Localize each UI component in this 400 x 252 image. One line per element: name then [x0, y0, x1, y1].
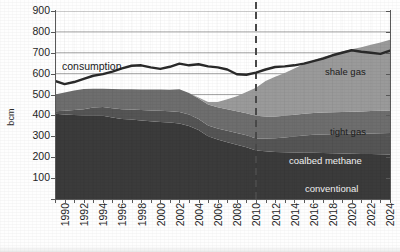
y-tick-label-600: 600: [16, 68, 50, 78]
x-tick-label-1990: 1990: [59, 203, 71, 249]
chart-figure: bcm 900800700600500400300200100 19901992…: [0, 0, 400, 252]
right-tick-300: [386, 136, 391, 137]
y-axis-tick-labels: 900800700600500400300200100: [12, 0, 50, 252]
x-tick-label-2012: 2012: [270, 203, 282, 249]
series-label-shale-gas: shale gas: [325, 66, 366, 77]
x-tick-label-2022: 2022: [365, 203, 377, 249]
y-tick-label-200: 200: [16, 151, 50, 161]
x-tick-1994: [93, 199, 94, 203]
x-tick-2022: [361, 199, 362, 203]
x-tick-label-2014: 2014: [289, 203, 301, 249]
series-label-conventional: conventional: [305, 183, 358, 194]
y-tick-label-100: 100: [16, 172, 50, 182]
right-tick-600: [386, 74, 391, 75]
y-tick-700: [51, 53, 55, 54]
x-axis-line: [55, 199, 391, 200]
x-tick-1990: [55, 199, 56, 203]
x-tick-label-2020: 2020: [346, 203, 358, 249]
x-tick-2014: [285, 199, 286, 203]
y-tick-label-300: 300: [16, 130, 50, 140]
y-tick-label-700: 700: [16, 47, 50, 57]
stacked-area-svg: [55, 11, 390, 199]
right-tick-800: [386, 32, 391, 33]
y-axis-line: [55, 10, 56, 200]
x-tick-label-2024: 2024: [384, 203, 396, 249]
x-tick-label-1992: 1992: [78, 203, 90, 249]
series-label-coalbed-methane: coalbed methane: [289, 155, 362, 166]
y-tick-500: [51, 95, 55, 96]
series-label-consumption: consumption: [62, 60, 122, 72]
x-tick-2016: [304, 199, 305, 203]
x-tick-label-2018: 2018: [327, 203, 339, 249]
x-tick-2004: [189, 199, 190, 203]
right-axis-line: [390, 10, 391, 200]
right-tick-700: [386, 53, 391, 54]
x-tick-2000: [151, 199, 152, 203]
x-tick-label-2008: 2008: [231, 203, 243, 249]
y-tick-200: [51, 157, 55, 158]
y-tick-label-500: 500: [16, 89, 50, 99]
x-tick-label-2002: 2002: [174, 203, 186, 249]
x-tick-label-2000: 2000: [155, 203, 167, 249]
x-tick-label-2010: 2010: [250, 203, 262, 249]
y-tick-label-900: 900: [16, 5, 50, 15]
plot-area: [55, 11, 390, 199]
x-tick-2002: [170, 199, 171, 203]
y-tick-300: [51, 136, 55, 137]
y-tick-label-800: 800: [16, 26, 50, 36]
right-tick-900: [386, 11, 391, 12]
x-tick-label-1998: 1998: [136, 203, 148, 249]
x-tick-2012: [266, 199, 267, 203]
x-tick-2018: [323, 199, 324, 203]
right-tick-500: [386, 95, 391, 96]
x-tick-1996: [112, 199, 113, 203]
x-tick-label-2006: 2006: [212, 203, 224, 249]
y-tick-100: [51, 178, 55, 179]
right-tick-100: [386, 178, 391, 179]
x-tick-label-2004: 2004: [193, 203, 205, 249]
x-tick-label-1996: 1996: [116, 203, 128, 249]
x-tick-label-1994: 1994: [97, 203, 109, 249]
right-tick-400: [386, 115, 391, 116]
y-tick-400: [51, 115, 55, 116]
x-tick-1992: [74, 199, 75, 203]
x-tick-2024: [380, 199, 381, 203]
x-tick-label-2016: 2016: [308, 203, 320, 249]
y-tick-900: [51, 11, 55, 12]
series-label-tight-gas: tight gas: [330, 126, 366, 137]
x-tick-2020: [342, 199, 343, 203]
x-tick-2010: [246, 199, 247, 203]
y-tick-label-400: 400: [16, 109, 50, 119]
y-tick-800: [51, 32, 55, 33]
x-tick-1998: [132, 199, 133, 203]
right-tick-200: [386, 157, 391, 158]
x-tick-2008: [227, 199, 228, 203]
y-tick-600: [51, 74, 55, 75]
x-tick-2006: [208, 199, 209, 203]
